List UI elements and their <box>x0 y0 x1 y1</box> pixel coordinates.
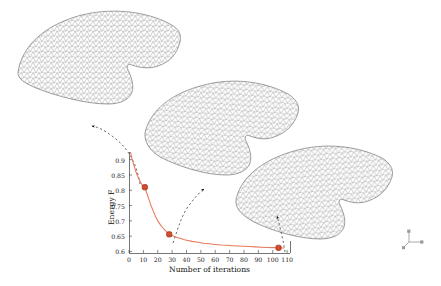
x-tick-70: 70 <box>226 256 234 263</box>
plot-text-layer: 0102030405060708090100110 0.60.650.70.75… <box>0 0 441 286</box>
x-tick-0: 0 <box>127 256 131 263</box>
x-tick-90: 90 <box>254 256 262 263</box>
x-tick-110: 110 <box>281 256 293 263</box>
x-tick-60: 60 <box>211 256 219 263</box>
y-tick-0.6: 0.6 <box>115 248 125 255</box>
figure-canvas: 0102030405060708090100110 0.60.650.70.75… <box>0 0 441 286</box>
y-tick-0.8: 0.8 <box>115 187 125 194</box>
x-tick-100: 100 <box>267 256 279 263</box>
x-tick-30: 30 <box>168 256 176 263</box>
y-axis-label: Energy F <box>107 189 116 224</box>
x-tick-10: 10 <box>139 256 147 263</box>
x-tick-20: 20 <box>154 256 162 263</box>
x-tick-80: 80 <box>240 256 248 263</box>
y-tick-0.85: 0.85 <box>111 171 125 178</box>
y-tick-0.7: 0.7 <box>115 217 125 224</box>
x-axis-label: Number of iterations <box>169 265 250 274</box>
x-tick-40: 40 <box>183 256 191 263</box>
y-tick-0.9: 0.9 <box>115 156 125 163</box>
y-tick-0.65: 0.65 <box>111 233 125 240</box>
x-tick-50: 50 <box>197 256 205 263</box>
